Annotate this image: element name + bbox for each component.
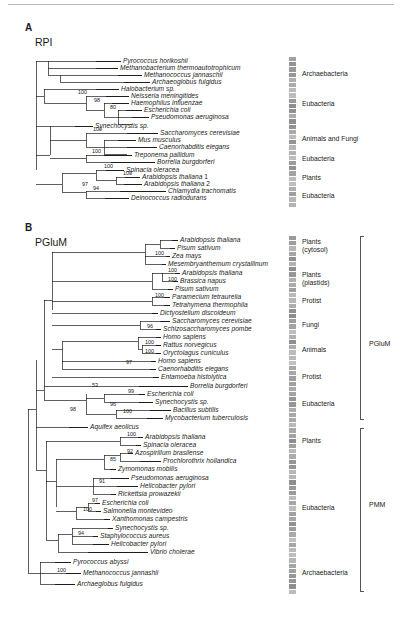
- group-bar-segment: [289, 553, 296, 557]
- group-bar-segment: [289, 574, 296, 578]
- tip-branch: [156, 345, 161, 346]
- bootstrap-value: 53: [92, 382, 98, 388]
- tip-branch: [162, 264, 166, 265]
- tip-branch: [139, 386, 188, 387]
- tip-branch: [152, 313, 158, 314]
- group-bar-segment: [289, 579, 296, 583]
- taxon-label: Saccharomyces cerevisiae: [160, 129, 240, 136]
- bootstrap-value: 91: [99, 478, 105, 484]
- group-bar-segment: [289, 501, 296, 505]
- bootstrap-value: 100: [155, 250, 164, 256]
- group-bar-segment: [289, 439, 296, 443]
- tip-branch: [147, 418, 163, 419]
- group-bar-segment: [289, 252, 296, 256]
- taxon-label: Vibrio cholerae: [150, 548, 195, 555]
- tip-branch: [104, 519, 110, 520]
- group-label: Eubacteria: [302, 155, 335, 163]
- enzyme-bracket-label: PMM: [369, 501, 385, 508]
- group-bar-segment: [289, 584, 296, 588]
- taxon-label: Rattus norvegicus: [163, 341, 217, 348]
- tip-branch: [172, 240, 178, 241]
- bootstrap-value: 80: [110, 104, 116, 110]
- group-bar-segment: [289, 298, 296, 302]
- group-bar-segment: [289, 517, 296, 521]
- tip-branch: [175, 273, 180, 274]
- group-bar-segment: [289, 345, 296, 349]
- group-bar-segment: [289, 564, 296, 568]
- group-bar-segment: [289, 506, 296, 510]
- tip-branch: [156, 337, 161, 338]
- taxon-label: Homo sapiens: [163, 333, 206, 340]
- group-bar-segment: [289, 512, 296, 516]
- group-bar-segment: [289, 236, 296, 240]
- group-bar-segment: [289, 356, 296, 360]
- tip-branch: [69, 427, 88, 428]
- tip-branch: [150, 369, 156, 370]
- tip-branch: [150, 410, 171, 411]
- taxon-label: Rickettsia prowazekii: [118, 490, 181, 497]
- bootstrap-value: 100: [93, 126, 102, 132]
- taxon-label: Homo sapiens: [158, 357, 201, 364]
- taxon-copy-number: 2: [204, 180, 210, 187]
- group-label: Plants: [302, 174, 321, 182]
- enzyme-bracket: [360, 428, 365, 592]
- tip-branch: [138, 437, 143, 438]
- group-label: Animals: [302, 346, 326, 354]
- group-label: Plants(plastids): [302, 271, 330, 287]
- group-bar-segment: [289, 558, 296, 562]
- group-bar-segment: [289, 330, 296, 334]
- tip-branch: [156, 329, 161, 330]
- group-bar-segment: [289, 413, 296, 417]
- tip-branch: [168, 289, 173, 290]
- bootstrap-value: 100: [83, 506, 92, 512]
- group-bar-segment: [289, 293, 296, 297]
- taxon-label: Haemophilus influenzae: [131, 99, 202, 106]
- group-label: Eubacteria: [302, 192, 335, 200]
- group-bar-segment: [289, 538, 296, 542]
- bootstrap-value: 97: [82, 181, 88, 187]
- taxon-label: Archaeoglobus fulgidus: [152, 78, 222, 85]
- bootstrap-value: 100: [123, 170, 132, 176]
- taxon-label: Oryctolagus cuniculus: [163, 349, 229, 356]
- bootstrap-value: 100: [127, 431, 136, 437]
- taxon-label: Deinococcus radiodurans: [131, 194, 207, 201]
- taxon-label: Tetrahymena thermophila: [172, 301, 248, 308]
- group-bar-segment: [289, 246, 296, 250]
- figure-root: A RPI: [0, 0, 402, 622]
- group-bar-segment: [289, 423, 296, 427]
- taxon-label: Borrelia burgdorferi: [190, 382, 247, 389]
- taxon-label: Arabidopsis thaliana 1: [142, 173, 208, 180]
- enzyme-bracket-label: PGluM: [369, 340, 390, 347]
- taxon-label: Entamoeba histolytica: [161, 373, 227, 380]
- tip-branch: [156, 353, 161, 354]
- group-sublabel: (plastids): [302, 279, 330, 286]
- taxon-label: Azospirillum brasilense: [135, 449, 204, 456]
- bracket-vert: [360, 428, 361, 592]
- taxon-label: Pyrococcus horikoshii: [123, 57, 188, 64]
- group-bar-segment: [289, 548, 296, 552]
- bootstrap-value: 100: [168, 276, 177, 282]
- taxon-label: Arabidopsis thaliana: [182, 269, 242, 276]
- group-label: Archaebacteria: [302, 569, 348, 577]
- group-bar-segment: [289, 335, 296, 339]
- taxon-label: Mesembryanthemum crystallinum: [168, 260, 268, 267]
- taxon-copy-number: 1: [202, 173, 208, 180]
- taxon-label: Bacillus subtilis: [173, 406, 219, 413]
- taxon-label: Arabidopsis thaliana: [180, 236, 240, 243]
- tip-branch: [96, 89, 119, 90]
- group-bar-segment: [289, 319, 296, 323]
- group-bar-segment: [289, 350, 296, 354]
- group-sublabel: (cytosol): [302, 246, 328, 253]
- tip-branch: [96, 61, 121, 62]
- panel-b-group-bar: [289, 236, 296, 591]
- group-bar-segment: [289, 434, 296, 438]
- group-bar-segment: [289, 522, 296, 526]
- group-label: Eubacteria: [302, 504, 335, 512]
- tip-branch: [93, 544, 109, 545]
- tip-branch: [117, 486, 138, 487]
- group-label: Plants: [302, 437, 321, 445]
- taxon-label: Pseudomonas aeruginosa: [131, 474, 209, 481]
- bracket-top: [360, 428, 364, 429]
- group-bar-segment: [289, 527, 296, 531]
- group-bar-segment: [289, 486, 296, 490]
